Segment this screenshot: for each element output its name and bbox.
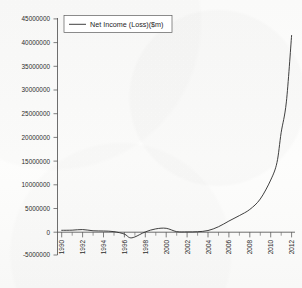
x-tick-label: 1998 — [142, 240, 149, 255]
x-tick-label: 1994 — [100, 240, 107, 255]
x-tick-label: 2008 — [246, 240, 253, 255]
x-tick-label: 2000 — [163, 240, 170, 255]
x-tick-label: 1996 — [121, 240, 128, 255]
x-tick-label: 2002 — [184, 240, 191, 255]
x-axis-labels: 1990 1992 1994 1996 1998 2000 2002 2004 … — [58, 240, 295, 255]
x-tick-label: 2006 — [225, 240, 232, 255]
y-tick-label: 10000000 — [22, 181, 51, 188]
x-tick-label: 2010 — [267, 240, 274, 255]
chart-legend: Net Income (Loss)($m) — [64, 16, 172, 33]
y-tick-label: 15000000 — [22, 158, 51, 165]
y-tick-label: 45000000 — [22, 15, 51, 22]
y-tick-label: 40000000 — [22, 39, 51, 46]
y-tick-label: 25000000 — [22, 110, 51, 117]
y-tick-label: 0 — [46, 229, 50, 236]
x-tick-label: 1990 — [58, 240, 65, 255]
net-income-line-chart: 45000000 40000000 35000000 30000000 2500… — [0, 0, 302, 288]
legend-label: Net Income (Loss)($m) — [90, 20, 164, 29]
y-tick-label: -5000000 — [23, 251, 50, 258]
x-tick-label: 1992 — [79, 240, 86, 255]
x-axis-ticks — [62, 232, 292, 237]
x-tick-label: 2012 — [288, 240, 295, 255]
chart-page: 45000000 40000000 35000000 30000000 2500… — [0, 0, 302, 288]
y-tick-label: 35000000 — [22, 63, 51, 70]
y-tick-label: 20000000 — [22, 134, 51, 141]
y-axis-labels: 45000000 40000000 35000000 30000000 2500… — [22, 15, 51, 258]
x-tick-label: 2004 — [205, 240, 212, 255]
series-net-income — [62, 35, 292, 237]
y-tick-label: 30000000 — [22, 86, 51, 93]
y-tick-label: 5000000 — [25, 205, 50, 212]
y-axis-ticks — [54, 19, 58, 255]
